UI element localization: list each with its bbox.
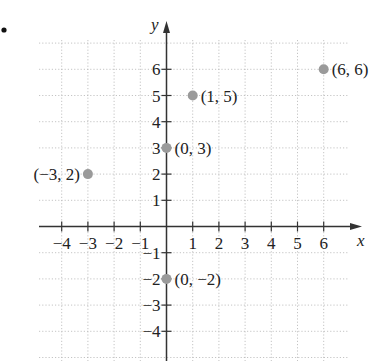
x-axis-arrow-icon <box>350 223 362 230</box>
x-tick-label: −4 <box>53 234 72 253</box>
y-tick-label: −3 <box>142 296 160 315</box>
x-tick-label: 3 <box>241 234 250 253</box>
y-tick-label: 2 <box>152 165 161 184</box>
x-tick-label: 1 <box>188 234 197 253</box>
y-tick-label: 3 <box>152 139 161 158</box>
point-label: (6, 6) <box>332 60 369 79</box>
data-point <box>188 91 198 101</box>
y-axis-label: y <box>149 15 159 34</box>
coordinate-plane: xy −4−3−2−1123456654321−1−2−3−4 (−3, 2)(… <box>0 0 379 363</box>
x-axis-label: x <box>356 231 365 250</box>
data-point <box>319 64 329 74</box>
x-tick-label: −3 <box>79 234 97 253</box>
y-tick-label: −1 <box>142 244 160 263</box>
y-axis-arrow-icon <box>163 21 170 33</box>
grid-lines <box>39 40 348 361</box>
x-tick-label: −2 <box>105 234 123 253</box>
data-point <box>83 169 93 179</box>
point-label: (−3, 2) <box>33 165 79 184</box>
x-tick-label: 4 <box>267 234 276 253</box>
point-label: (0, 3) <box>175 139 212 158</box>
y-tick-label: 4 <box>152 113 161 132</box>
y-tick-label: 6 <box>152 60 161 79</box>
y-tick-label: 5 <box>152 87 161 106</box>
point-label: (0, −2) <box>175 270 221 289</box>
x-tick-label: 5 <box>293 234 302 253</box>
y-tick-label: 1 <box>152 191 161 210</box>
x-tick-label: 6 <box>319 234 328 253</box>
axis-ticks: −4−3−2−1123456654321−1−2−3−4 <box>53 60 328 341</box>
x-tick-label: 2 <box>215 234 224 253</box>
data-point <box>162 143 172 153</box>
point-label: (1, 5) <box>201 87 238 106</box>
bullet-marker <box>1 27 6 32</box>
data-points: (−3, 2)(0, 3)(1, 5)(6, 6)(0, −2) <box>33 60 368 289</box>
data-point <box>162 274 172 284</box>
y-tick-label: −2 <box>142 270 160 289</box>
y-tick-label: −4 <box>142 322 161 341</box>
